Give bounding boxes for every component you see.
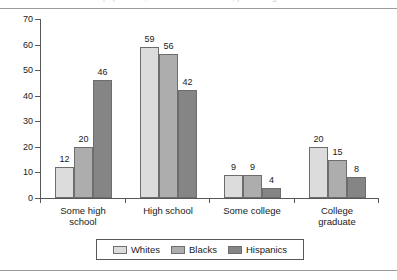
y-tick-label-0: 0 [0, 194, 33, 203]
y-tick-label-70: 70 [0, 15, 33, 24]
legend-item-hispanics[interactable]: Hispanics [228, 245, 287, 255]
y-tick-label-10-wrap: 10 [0, 168, 33, 177]
y-tick-20 [35, 147, 40, 148]
bar-value-label: 8 [354, 165, 359, 174]
bar-group-college-graduate: 20 15 8 [295, 19, 379, 198]
x-category-line-1: Some high [41, 205, 125, 216]
y-tick-30 [35, 121, 40, 122]
legend-label-whites: Whites [131, 245, 160, 255]
bar-whites-high-school[interactable]: 59 [140, 47, 159, 198]
y-tick-10 [35, 172, 40, 173]
bar-value-label: 9 [231, 163, 236, 172]
x-tick-4 [378, 198, 379, 203]
legend-swatch-blacks [171, 246, 185, 254]
x-category-line-2: graduate [295, 216, 379, 227]
y-tick-label-50: 50 [0, 66, 33, 75]
bar-group-high-school: 59 56 42 [126, 19, 210, 198]
bar-value-label: 42 [182, 78, 192, 87]
x-category-label-college-graduate: College graduate [295, 205, 379, 227]
x-category-label-high-school: High school [126, 205, 210, 216]
y-tick-label-30: 30 [0, 117, 33, 126]
top-caption-text: characteristics of the population, educa… [18, 0, 286, 2]
y-tick-label-20-wrap: 20 [0, 143, 33, 152]
y-tick-label-10: 10 [0, 168, 33, 177]
bar-blacks-some-college[interactable]: 9 [243, 175, 262, 198]
bar-value-label: 59 [144, 35, 154, 44]
x-tick-2 [209, 198, 210, 203]
y-tick-40 [35, 96, 40, 97]
legend-item-blacks[interactable]: Blacks [171, 245, 217, 255]
bar-whites-some-college[interactable]: 9 [224, 175, 243, 198]
bar-group-bars: 20 15 8 [309, 19, 366, 198]
y-tick-50 [35, 70, 40, 71]
bar-hispanics-college-graduate[interactable]: 8 [347, 177, 366, 198]
bar-hispanics-some-college[interactable]: 4 [262, 188, 281, 198]
y-tick-label-40: 40 [0, 92, 33, 101]
bar-blacks-high-school[interactable]: 56 [159, 54, 178, 198]
x-tick-3 [294, 198, 295, 203]
bar-value-label: 56 [163, 42, 173, 51]
chart-legend: Whites Blacks Hispanics [96, 239, 304, 260]
y-tick-label-70-wrap: 70 [0, 15, 33, 24]
y-tick-label-50-wrap: 50 [0, 66, 33, 75]
bar-value-label: 46 [97, 68, 107, 77]
legend-label-blacks: Blacks [189, 245, 217, 255]
bar-group-bars: 59 56 42 [140, 19, 197, 198]
bar-hispanics-some-high-school[interactable]: 46 [93, 80, 112, 198]
x-category-label-some-college: Some college [210, 205, 294, 216]
bar-blacks-college-graduate[interactable]: 15 [328, 160, 347, 198]
y-tick-label-60-wrap: 60 [0, 41, 33, 50]
bar-chart: 0 10 20 30 40 50 60 70 12 20 [0, 9, 397, 235]
y-tick-60 [35, 45, 40, 46]
x-category-line-1: High school [126, 205, 210, 216]
x-tick-0 [40, 198, 41, 203]
legend-swatch-hispanics [228, 246, 242, 254]
bar-blacks-some-high-school[interactable]: 20 [74, 147, 93, 198]
y-tick-label-40-wrap: 40 [0, 92, 33, 101]
y-tick-label-60: 60 [0, 41, 33, 50]
legend-label-hispanics: Hispanics [246, 245, 287, 255]
bar-value-label: 15 [332, 148, 342, 157]
bar-whites-college-graduate[interactable]: 20 [309, 147, 328, 198]
x-category-line-1: Some college [210, 205, 294, 216]
x-category-label-some-high-school: Some high school [41, 205, 125, 227]
bar-value-label: 12 [59, 155, 69, 164]
bar-group-some-college: 9 9 4 [210, 19, 294, 198]
legend-swatch-whites [113, 246, 127, 254]
x-category-line-2: school [41, 216, 125, 227]
bar-whites-some-high-school[interactable]: 12 [55, 167, 74, 198]
bottom-horizontal-rule [0, 270, 397, 271]
bar-group-bars: 12 20 46 [55, 19, 112, 198]
y-tick-label-20: 20 [0, 143, 33, 152]
bar-value-label: 20 [313, 135, 323, 144]
bar-group-bars: 9 9 4 [224, 19, 281, 198]
x-category-line-1: College [295, 205, 379, 216]
bar-value-label: 4 [269, 176, 274, 185]
bar-hispanics-high-school[interactable]: 42 [178, 90, 197, 198]
x-tick-1 [125, 198, 126, 203]
bar-group-some-high-school: 12 20 46 [41, 19, 125, 198]
y-tick-label-30-wrap: 30 [0, 117, 33, 126]
legend-item-whites[interactable]: Whites [113, 245, 160, 255]
bar-value-label: 9 [250, 163, 255, 172]
y-tick-70 [35, 19, 40, 20]
y-tick-label-0-wrap: 0 [0, 194, 33, 203]
bar-value-label: 20 [78, 135, 88, 144]
